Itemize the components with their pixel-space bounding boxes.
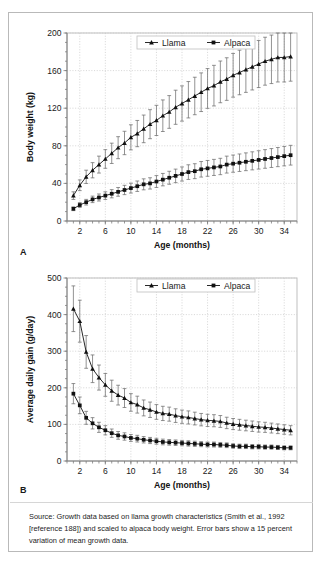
chart-panel-b: 01002003004005002610141822263034Age (mon… (9, 263, 314, 498)
divider (10, 502, 313, 503)
data-point-square (174, 174, 178, 178)
y-tick-label: 400 (47, 310, 61, 320)
data-point-square (180, 172, 184, 176)
data-point-square (72, 392, 76, 396)
legend-marker-square (212, 284, 216, 288)
data-point-square (174, 441, 178, 445)
y-tick-label: 500 (47, 273, 61, 283)
legend-label-llama: Llama (162, 38, 186, 48)
data-point-square (135, 437, 139, 441)
data-point-square (110, 431, 114, 435)
y-tick-label: 80 (52, 141, 62, 151)
data-point-square (180, 441, 184, 445)
data-point-square (123, 435, 127, 439)
data-point-square (123, 188, 127, 192)
x-tick-label: 22 (203, 466, 213, 476)
data-point-square (97, 196, 101, 200)
legend-label-llama: Llama (162, 281, 186, 291)
legend-label-alpaca: Alpaca (224, 38, 250, 48)
figure-container: 040801201602002610141822263034Age (month… (8, 12, 313, 552)
x-tick-label: 14 (152, 226, 162, 236)
x-tick-label: 14 (152, 466, 162, 476)
x-tick-label: 26 (228, 466, 238, 476)
x-tick-label: 10 (126, 466, 136, 476)
data-point-square (257, 445, 261, 449)
data-point-square (193, 169, 197, 173)
y-tick-label: 160 (47, 66, 61, 76)
data-point-square (276, 155, 280, 159)
data-point-square (187, 170, 191, 174)
data-point-square (142, 182, 146, 186)
data-point-square (289, 153, 293, 157)
data-point-square (244, 445, 248, 449)
x-tick-label: 6 (103, 226, 108, 236)
y-tick-label: 0 (57, 456, 62, 466)
x-tick-label: 18 (177, 226, 187, 236)
data-point-square (250, 445, 254, 449)
data-point-square (142, 438, 146, 442)
x-tick-label: 34 (279, 466, 289, 476)
x-tick-label: 34 (279, 226, 289, 236)
data-point-square (225, 443, 229, 447)
data-point-square (91, 198, 95, 202)
data-point-square (167, 440, 171, 444)
source-note: Source: Growth data based on llama growt… (29, 511, 297, 547)
data-point-square (72, 207, 76, 211)
x-axis-title: Age (months) (154, 240, 210, 250)
data-point-square (129, 186, 133, 190)
data-point-square (129, 436, 133, 440)
data-point-square (148, 182, 152, 186)
data-point-square (250, 159, 254, 163)
y-tick-label: 200 (47, 28, 61, 38)
data-point-square (212, 443, 216, 447)
legend: LlamaAlpaca (137, 36, 255, 49)
data-point-square (78, 203, 82, 207)
data-point-square (225, 163, 229, 167)
y-tick-label: 0 (57, 216, 62, 226)
legend-marker-square (212, 41, 216, 45)
data-point-square (238, 161, 242, 165)
data-point-square (110, 192, 114, 196)
x-tick-label: 30 (254, 466, 264, 476)
data-point-square (84, 200, 88, 204)
legend: LlamaAlpaca (137, 279, 255, 292)
data-point-square (231, 162, 235, 166)
panel-label-a: A (20, 247, 27, 257)
x-tick-label: 26 (228, 226, 238, 236)
data-point-square (206, 443, 210, 447)
data-point-square (116, 434, 120, 438)
data-point-square (91, 421, 95, 425)
data-point-square (244, 160, 248, 164)
data-point-square (135, 184, 139, 188)
x-tick-label: 2 (77, 466, 82, 476)
data-point-square (231, 444, 235, 448)
data-point-square (276, 446, 280, 450)
data-point-square (84, 416, 88, 420)
data-point-square (282, 446, 286, 450)
data-point-square (103, 194, 107, 198)
data-point-square (289, 446, 293, 450)
data-point-square (103, 428, 107, 432)
y-tick-label: 40 (52, 178, 62, 188)
x-tick-label: 30 (254, 226, 264, 236)
data-point-square (155, 439, 159, 443)
data-point-square (238, 445, 242, 449)
data-point-square (199, 442, 203, 446)
data-point-square (78, 404, 82, 408)
y-tick-label: 300 (47, 346, 61, 356)
data-point-square (212, 166, 216, 170)
data-point-square (270, 445, 274, 449)
x-tick-label: 22 (203, 226, 213, 236)
x-tick-label: 10 (126, 226, 136, 236)
panel-label-b: B (20, 485, 27, 495)
x-axis-title: Age (months) (154, 480, 210, 490)
data-point-square (206, 167, 210, 171)
x-tick-label: 2 (77, 226, 82, 236)
legend-label-alpaca: Alpaca (224, 281, 250, 291)
data-point-square (193, 442, 197, 446)
data-point-square (187, 442, 191, 446)
data-point-square (282, 154, 286, 158)
data-point-square (218, 165, 222, 169)
body-weight-chart: 040801201602002610141822263034Age (month… (9, 13, 314, 263)
data-point-square (148, 439, 152, 443)
